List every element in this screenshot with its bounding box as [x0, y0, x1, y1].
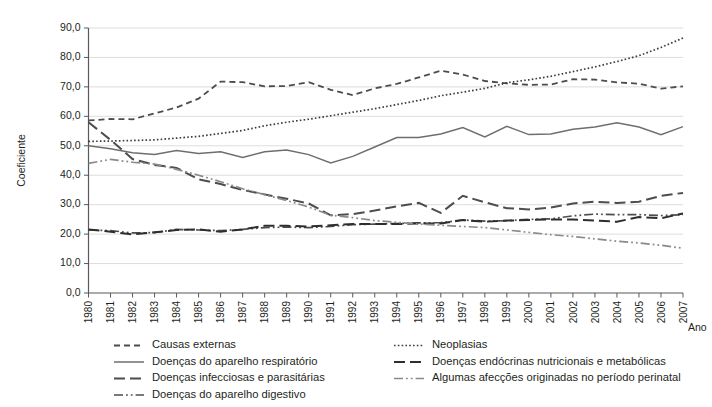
y-tick-label: 0,0 [66, 286, 81, 298]
y-tick-label: 20,0 [60, 227, 81, 239]
legend-item-right-0[interactable]: Neoplasias [432, 338, 488, 350]
x-tick-label: 2003 [590, 301, 601, 324]
x-tick-label: 1996 [435, 301, 446, 324]
y-axis-title: Coeficiente [15, 134, 27, 187]
y-tick-label: 40,0 [60, 168, 81, 180]
x-axis-title: Ano [688, 321, 707, 333]
y-tick-label: 70,0 [60, 80, 81, 92]
chart-legend: Causas externasDoenças do aparelho respi… [114, 338, 681, 400]
x-tick-label: 2007 [678, 301, 689, 324]
legend-item-right-2[interactable]: Algumas afecções originadas no período p… [432, 371, 681, 383]
x-tick-label: 1985 [193, 301, 204, 324]
x-tick-label: 1989 [281, 301, 292, 324]
x-tick-label: 1991 [325, 301, 336, 324]
y-tick-label: 60,0 [60, 109, 81, 121]
series-line-1 [89, 123, 684, 163]
x-tick-label: 1995 [413, 301, 424, 324]
y-tick-label: 90,0 [60, 21, 81, 33]
series-line-0 [89, 71, 684, 121]
x-tick-label: 1997 [457, 301, 468, 324]
legend-item-left-0[interactable]: Causas externas [152, 338, 236, 350]
series-line-5 [89, 214, 684, 235]
x-tick-label: 1990 [303, 301, 314, 324]
chart-figure: 0,010,020,030,040,050,060,070,080,090,0 … [0, 0, 712, 407]
x-tick-label: 1998 [479, 301, 490, 324]
x-tick-label: 2004 [612, 301, 623, 324]
x-tick-label: 1982 [127, 301, 138, 324]
y-tick-label: 10,0 [60, 256, 81, 268]
x-tick-label: 1999 [501, 301, 512, 324]
grid-lines [89, 28, 684, 264]
plot-series [89, 38, 684, 248]
axis-titles: CoeficienteAno [15, 134, 707, 333]
x-tick-label: 1984 [171, 301, 182, 324]
series-line-6 [89, 159, 684, 248]
x-axis: 1980198119821983198419851986198719881989… [83, 293, 689, 323]
y-axis: 0,010,020,030,040,050,060,070,080,090,0 [60, 21, 88, 298]
x-tick-label: 2005 [634, 301, 645, 324]
x-tick-label: 2000 [523, 301, 534, 324]
legend-item-left-3[interactable]: Doenças do aparelho digestivo [152, 388, 306, 400]
x-tick-label: 1992 [347, 301, 358, 324]
x-tick-label: 1993 [369, 301, 380, 324]
x-tick-label: 1987 [237, 301, 248, 324]
x-tick-label: 2001 [545, 301, 556, 324]
legend-item-right-1[interactable]: Doenças endócrinas nutricionais e metabó… [432, 355, 666, 367]
y-tick-label: 50,0 [60, 139, 81, 151]
series-line-2 [89, 122, 684, 215]
x-tick-label: 1980 [83, 301, 94, 324]
x-tick-label: 1994 [391, 301, 402, 324]
x-tick-label: 1983 [149, 301, 160, 324]
x-tick-label: 1988 [259, 301, 270, 324]
legend-item-left-2[interactable]: Doenças infecciosas e parasitárias [152, 371, 325, 383]
x-tick-label: 1981 [105, 301, 116, 324]
x-tick-label: 2006 [656, 301, 667, 324]
line-chart-canvas: 0,010,020,030,040,050,060,070,080,090,0 … [0, 0, 712, 407]
x-tick-label: 1986 [215, 301, 226, 324]
y-tick-label: 30,0 [60, 197, 81, 209]
legend-item-left-1[interactable]: Doenças do aparelho respiratório [152, 355, 317, 367]
y-tick-label: 80,0 [60, 50, 81, 62]
series-line-4 [89, 38, 684, 141]
x-tick-label: 2002 [568, 301, 579, 324]
